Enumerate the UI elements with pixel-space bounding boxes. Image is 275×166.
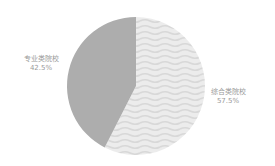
pie-chart: 专业类院校 42.5% 综合类院校 57.5% — [0, 0, 275, 166]
slice-percent: 57.5% — [202, 97, 254, 106]
slice-label-comprehensive: 综合类院校 57.5% — [202, 88, 254, 106]
slice-name: 综合类院校 — [202, 88, 254, 97]
slice-percent: 42.5% — [16, 64, 66, 73]
slice-name: 专业类院校 — [16, 55, 66, 64]
slice-label-specialized: 专业类院校 42.5% — [16, 55, 66, 73]
pie-svg — [0, 0, 275, 166]
